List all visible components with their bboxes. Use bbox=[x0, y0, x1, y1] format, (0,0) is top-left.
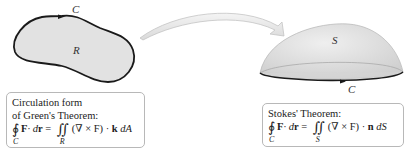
surface-boundary-curve-c bbox=[260, 72, 403, 80]
curve-c-label: C bbox=[72, 3, 79, 15]
region-r-label: R bbox=[73, 44, 80, 56]
stokes-theorem-box: Stokes' Theorem: ∮C F · dr = ∬S (∇ × F) … bbox=[262, 103, 404, 147]
surface-curve-c-label: C bbox=[348, 83, 355, 95]
surface-s-label: S bbox=[332, 34, 338, 46]
double-integral-symbol: ∬R bbox=[57, 123, 69, 136]
greens-formula: ∮C F · dr = ∬R (∇ × F) · k dA bbox=[12, 123, 139, 136]
transform-arrow bbox=[140, 13, 284, 40]
contour-integral-symbol: ∮C bbox=[268, 121, 275, 134]
greens-theorem-box: Circulation form of Green's Theorem: ∮C … bbox=[6, 92, 145, 148]
contour-integral-symbol: ∮C bbox=[12, 123, 19, 136]
stokes-title: Stokes' Theorem: bbox=[268, 107, 398, 120]
greens-title-line2: of Green's Theorem: bbox=[12, 109, 139, 122]
greens-title-line1: Circulation form bbox=[12, 96, 139, 109]
stokes-formula: ∮C F · dr = ∬S (∇ × F) · n dS bbox=[268, 121, 398, 134]
double-integral-symbol: ∬S bbox=[313, 121, 325, 134]
